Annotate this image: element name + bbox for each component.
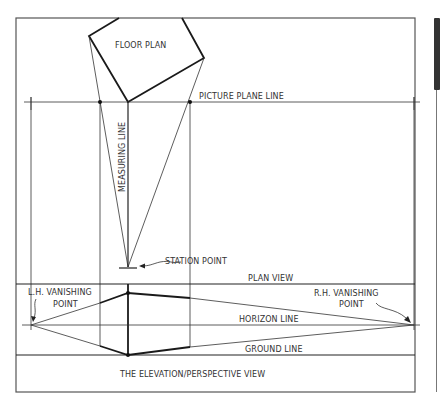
picture-plane-label: PICTURE PLANE LINE (199, 92, 284, 101)
perspective-box-bottom (100, 346, 190, 355)
vp-line-rh-bottom (190, 325, 414, 347)
vp-line-lh-bottom (31, 325, 100, 346)
drawing-frame (16, 18, 415, 392)
scrollbar-thumb[interactable] (434, 18, 440, 90)
front-top-dot (126, 291, 130, 295)
rh-vanishing-label-2: POINT (339, 300, 364, 309)
floor-plan-outline (89, 18, 204, 102)
lh-vanishing-label-2: POINT (53, 300, 78, 309)
plan-view-label: PLAN VIEW (248, 274, 293, 283)
elevation-view-label: THE ELEVATION/PERSPECTIVE VIEW (119, 370, 265, 379)
left-intersection-dot (98, 100, 102, 104)
front-bottom-dot (126, 353, 130, 357)
perspective-box-top (100, 293, 190, 303)
vp-line-rh-top (190, 298, 414, 325)
rh-vp-leader (376, 303, 406, 318)
lh-vanishing-label-1: L.H. VANISHING (28, 288, 92, 297)
lh-vp-leader (34, 299, 36, 318)
sight-line-right (128, 58, 204, 267)
floor-plan-label: FLOOR PLAN (115, 41, 166, 50)
measuring-line-label: MEASURING LINE (118, 122, 127, 192)
lh-vp-arrowhead (31, 316, 36, 322)
ground-line-label: GROUND LINE (245, 345, 303, 354)
perspective-diagram: FLOOR PLAN PICTURE PLANE LINE MEASURING … (0, 0, 446, 400)
rh-vanishing-label-1: R.H. VANISHING (314, 289, 379, 298)
horizon-line-label: HORIZON LINE (239, 315, 299, 324)
station-point-arrowhead (139, 264, 145, 269)
right-intersection-dot (188, 100, 192, 104)
station-point-label: STATION POINT (165, 257, 227, 266)
